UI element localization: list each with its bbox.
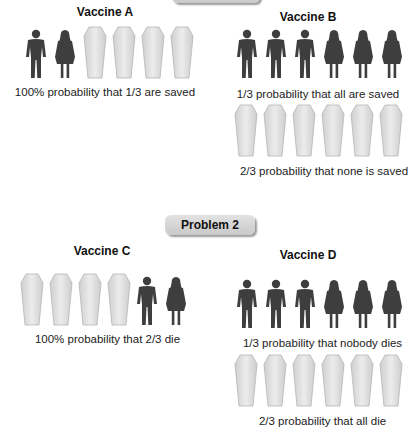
vaccine-a-figures [25,31,199,83]
vaccine-d-figures-saved [236,281,410,333]
coffin-icon [350,104,374,161]
problem-1-banner: Problem 1 [172,0,260,3]
man-icon [236,29,258,83]
vaccine-d-title: Vaccine D [258,248,358,262]
problem-2-label: Problem 2 [181,218,239,232]
coffin-icon [234,104,258,161]
coffin-icon [263,104,287,161]
vaccine-c-figures [20,278,194,330]
coffin-icon [78,273,102,330]
woman-icon [381,279,403,333]
man-icon [265,279,287,333]
woman-icon [352,29,374,83]
vaccine-d-caption-die: 2/3 probability that all die [245,415,400,427]
vaccine-c-caption: 100% probability that 2/3 die [20,333,195,345]
coffin-icon [379,104,403,161]
woman-icon [381,29,403,83]
coffin-icon [234,354,258,411]
man-icon [265,29,287,83]
man-icon [236,279,258,333]
coffin-icon [107,273,131,330]
vaccine-b-title: Vaccine B [258,10,358,24]
vaccine-b-figures-none [234,108,408,161]
man-icon [25,29,47,83]
vaccine-d-figures-die [234,358,408,411]
coffin-icon [292,354,316,411]
coffin-icon [170,26,194,83]
vaccine-a-caption: 100% probability that 1/3 are saved [0,86,210,98]
coffin-icon [292,104,316,161]
vaccine-b-figures-saved [236,31,410,83]
coffin-icon [379,354,403,411]
vaccine-b-caption-none: 2/3 probability that none is saved [238,165,410,177]
vaccine-a-title: Vaccine A [55,5,155,19]
man-icon [294,279,316,333]
coffin-icon [20,273,44,330]
coffin-icon [49,273,73,330]
vaccine-c-title: Vaccine C [52,244,152,258]
coffin-icon [141,26,165,83]
vaccine-d-caption-saved: 1/3 probability that nobody dies [235,337,410,349]
coffin-icon [83,26,107,83]
vaccine-b-caption-saved: 1/3 probability that all are saved [228,88,408,100]
coffin-icon [350,354,374,411]
woman-icon [54,29,76,83]
coffin-icon [321,104,345,161]
woman-icon [352,279,374,333]
problem-2-banner: Problem 2 [165,215,255,235]
coffin-icon [321,354,345,411]
coffin-icon [263,354,287,411]
woman-icon [165,276,187,330]
man-icon [294,29,316,83]
coffin-icon [112,26,136,83]
man-icon [136,276,158,330]
woman-icon [323,29,345,83]
woman-icon [323,279,345,333]
